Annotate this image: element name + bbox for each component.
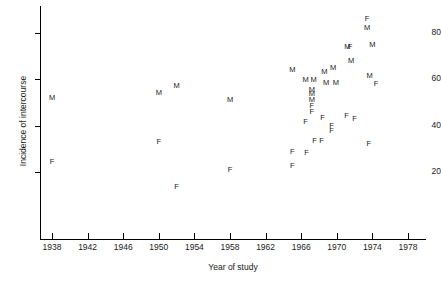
x-tick-label-1966: 1966 bbox=[281, 243, 321, 252]
y-tick-label-80: 80 bbox=[413, 28, 441, 37]
x-tick-label-1954: 1954 bbox=[174, 243, 214, 252]
x-tick-label-1958: 1958 bbox=[210, 243, 250, 252]
data-point-f-17: F bbox=[346, 43, 354, 51]
data-point-f-16: F bbox=[351, 115, 359, 123]
data-point-m-8: M bbox=[329, 64, 337, 72]
data-point-f-9: F bbox=[302, 118, 310, 126]
x-tick-label-1970: 1970 bbox=[317, 243, 357, 252]
y-axis-title: Incidence of intercourse bbox=[18, 46, 28, 196]
data-point-m-10: M bbox=[332, 79, 340, 87]
data-point-m-16: M bbox=[363, 24, 371, 32]
x-axis-line bbox=[40, 239, 426, 240]
x-tick-label-1962: 1962 bbox=[246, 243, 286, 252]
data-point-m-9: M bbox=[322, 79, 330, 87]
x-tick-label-1950: 1950 bbox=[139, 243, 179, 252]
data-point-f-12: F bbox=[318, 137, 326, 145]
data-point-f-6: F bbox=[303, 149, 311, 157]
scatter-plot-figure: 80604020 1938194219461950195419581962196… bbox=[0, 0, 441, 284]
y-tick-label-40: 40 bbox=[413, 121, 441, 130]
data-point-f-14: F bbox=[327, 127, 335, 135]
y-tick-label-20: 20 bbox=[413, 167, 441, 176]
data-point-f-20: F bbox=[372, 80, 380, 88]
data-point-m-18: M bbox=[366, 72, 374, 80]
x-tick-label-1978: 1978 bbox=[388, 243, 428, 252]
data-point-f-5: F bbox=[288, 162, 296, 170]
x-tick-1970 bbox=[337, 233, 338, 239]
x-tick-1954 bbox=[194, 233, 195, 239]
data-point-f-18: F bbox=[363, 15, 371, 23]
y-tick-40 bbox=[35, 126, 41, 127]
data-point-f-1: F bbox=[155, 138, 163, 146]
plot-area: 80604020 1938194219461950195419581962196… bbox=[0, 0, 441, 284]
y-tick-60 bbox=[35, 79, 41, 80]
x-tick-label-1942: 1942 bbox=[68, 243, 108, 252]
x-tick-label-1946: 1946 bbox=[103, 243, 143, 252]
data-point-m-6: M bbox=[310, 76, 318, 84]
data-point-f-15: F bbox=[343, 112, 351, 120]
y-tick-label-60: 60 bbox=[413, 74, 441, 83]
x-tick-1946 bbox=[123, 233, 124, 239]
data-point-m-17: M bbox=[368, 41, 376, 49]
data-point-f-19: F bbox=[365, 140, 373, 148]
data-point-f-10: F bbox=[319, 114, 327, 122]
data-point-m-7: M bbox=[320, 68, 328, 76]
data-point-m-14: M bbox=[347, 57, 355, 65]
data-point-m-1: M bbox=[155, 89, 163, 97]
data-point-f-0: F bbox=[48, 158, 56, 166]
x-tick-label-1974: 1974 bbox=[352, 243, 392, 252]
data-point-f-8: F bbox=[308, 108, 316, 116]
data-point-m-0: M bbox=[48, 94, 56, 102]
y-tick-20 bbox=[35, 172, 41, 173]
x-tick-1966 bbox=[301, 233, 302, 239]
x-tick-1950 bbox=[159, 233, 160, 239]
x-tick-1942 bbox=[88, 233, 89, 239]
data-point-f-4: F bbox=[288, 148, 296, 156]
x-tick-label-1938: 1938 bbox=[32, 243, 72, 252]
x-tick-1958 bbox=[230, 233, 231, 239]
data-point-m-5: M bbox=[302, 76, 310, 84]
x-tick-1974 bbox=[372, 233, 373, 239]
x-tick-1962 bbox=[266, 233, 267, 239]
data-point-f-3: F bbox=[226, 166, 234, 174]
data-point-m-3: M bbox=[226, 96, 234, 104]
x-tick-1938 bbox=[52, 233, 53, 239]
data-point-f-2: F bbox=[173, 183, 181, 191]
y-tick-80 bbox=[35, 33, 41, 34]
x-tick-1978 bbox=[408, 233, 409, 239]
data-point-m-4: M bbox=[288, 66, 296, 74]
x-axis-title: Year of study bbox=[40, 262, 426, 272]
y-axis-line bbox=[40, 6, 41, 240]
data-point-m-2: M bbox=[173, 82, 181, 90]
